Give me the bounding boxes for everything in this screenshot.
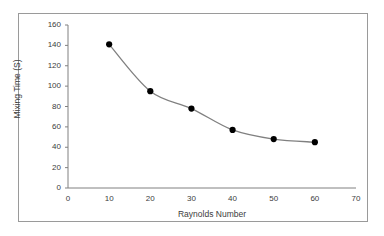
y-tick-label: 120	[37, 61, 61, 70]
x-axis-title: Raynolds Number	[68, 209, 356, 219]
y-tick-label: 160	[37, 20, 61, 29]
y-tick-label: 60	[37, 122, 61, 131]
x-tick-label: 40	[221, 194, 245, 203]
y-tick-label: 20	[37, 163, 61, 172]
x-tick-label: 50	[262, 194, 286, 203]
x-tick-label: 0	[56, 194, 80, 203]
chart-labels-layer: 020406080100120140160 010203040506070 Mi…	[0, 0, 384, 236]
x-tick-label: 30	[179, 194, 203, 203]
y-tick-label: 140	[37, 40, 61, 49]
x-tick-label: 70	[344, 194, 368, 203]
y-axis-title: Mixing Time (S)	[12, 39, 22, 139]
x-tick-label: 60	[303, 194, 327, 203]
y-tick-label: 100	[37, 81, 61, 90]
y-tick-label: 0	[37, 183, 61, 192]
y-tick-label: 40	[37, 142, 61, 151]
y-tick-label: 80	[37, 102, 61, 111]
x-tick-label: 10	[97, 194, 121, 203]
x-tick-label: 20	[138, 194, 162, 203]
